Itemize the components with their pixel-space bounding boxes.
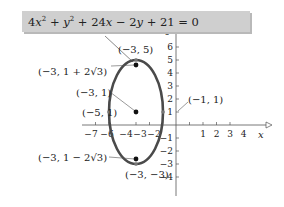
right-covertex-point — [161, 110, 165, 114]
svg-text:4: 4 — [167, 68, 173, 78]
top-vertex-point — [134, 58, 138, 62]
svg-text:−7: −7 — [84, 129, 98, 139]
svg-text:−2: −2 — [160, 146, 173, 156]
svg-text:−3: −3 — [160, 159, 174, 169]
equation-text: 4x2 + y2 + 24x − 2y + 21 = 0 — [28, 15, 199, 29]
label-bottom-vertex: (−3, −3) — [125, 169, 169, 180]
upper-focus-point — [134, 63, 139, 68]
svg-text:1: 1 — [200, 129, 206, 139]
y-ticks — [176, 47, 179, 177]
svg-text:4: 4 — [241, 129, 247, 139]
label-center: (−3, 1) — [76, 87, 111, 98]
label-left-covertex: (−5, 1) — [82, 107, 117, 118]
svg-text:3: 3 — [167, 81, 173, 91]
label-top-vertex: (−3, 5) — [118, 44, 153, 55]
label-upper-focus: (−3, 1 + 2√3) — [38, 66, 107, 77]
svg-text:−4: −4 — [119, 129, 133, 139]
lower-focus-point — [134, 157, 139, 162]
equation-box: 4x2 + y2 + 24x − 2y + 21 = 0 — [22, 11, 250, 32]
svg-text:5: 5 — [167, 55, 173, 65]
label-right-covertex: (−1, 1) — [188, 94, 223, 105]
x-axis-arrow-icon — [266, 122, 272, 128]
bottom-vertex-point — [134, 162, 138, 166]
svg-text:2: 2 — [214, 129, 220, 139]
svg-text:−3: −3 — [133, 129, 147, 139]
x-axis-label: x — [258, 129, 264, 140]
svg-text:6: 6 — [167, 42, 173, 52]
svg-text:3: 3 — [227, 129, 233, 139]
center-point — [134, 110, 139, 115]
svg-text:1: 1 — [167, 107, 173, 117]
point-labels: (−3, 5) (−3, 1 + 2√3) (−3, 1) (−5, 1) (−… — [38, 44, 223, 180]
ellipse-diagram: −7 −6 −4 −3 −2 1 2 3 4 x 6 5 4 3 2 1 −1 … — [0, 0, 284, 207]
label-lower-focus: (−3, 1 − 2√3) — [38, 152, 107, 163]
svg-text:2: 2 — [167, 94, 173, 104]
